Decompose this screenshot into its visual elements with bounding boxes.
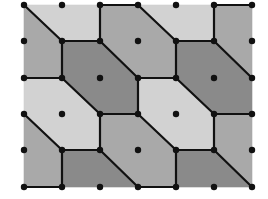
lattice-dot (59, 111, 65, 117)
lattice-dot (211, 111, 217, 117)
lattice-dot (135, 111, 141, 117)
lattice-dot (135, 147, 141, 153)
lattice-dot (97, 147, 103, 153)
lattice-dot (173, 147, 179, 153)
lattice-dot (249, 111, 255, 117)
lattice-dot (59, 2, 65, 8)
lattice-dot (249, 75, 255, 81)
lattice-dot (59, 147, 65, 153)
lattice-dot (59, 184, 65, 190)
lattice-dot (21, 75, 27, 81)
lattice-dot (135, 75, 141, 81)
lattice-dot (211, 184, 217, 190)
lattice-dot (249, 2, 255, 8)
lattice-dot (135, 2, 141, 8)
lattice-dot (211, 2, 217, 8)
lattice-dot (21, 38, 27, 44)
lattice-dot (21, 111, 27, 117)
lattice-dot (59, 38, 65, 44)
lattice-dot (173, 184, 179, 190)
lattice-dot (97, 75, 103, 81)
lattice-dot (97, 184, 103, 190)
lattice-dot (173, 38, 179, 44)
tiling-diagram: Tiling of a lattice by hexagons and quad… (0, 0, 268, 199)
lattice-dot (249, 184, 255, 190)
lattice-dot (211, 147, 217, 153)
lattice-dot (97, 111, 103, 117)
lattice-dot (97, 2, 103, 8)
lattice-dot (173, 2, 179, 8)
lattice-dot (173, 111, 179, 117)
lattice-dot (249, 38, 255, 44)
lattice-dot (135, 38, 141, 44)
lattice-dot (21, 147, 27, 153)
lattice-dot (211, 38, 217, 44)
tiling-svg (0, 0, 268, 199)
lattice-dot (21, 184, 27, 190)
lattice-dot (21, 2, 27, 8)
lattice-dot (249, 147, 255, 153)
lattice-dot (59, 75, 65, 81)
lattice-dot (173, 75, 179, 81)
lattice-dot (211, 75, 217, 81)
lattice-dot (97, 38, 103, 44)
lattice-dot (135, 184, 141, 190)
